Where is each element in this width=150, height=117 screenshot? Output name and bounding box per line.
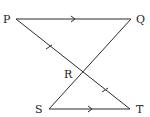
label-p: P	[3, 13, 11, 26]
segment-qs	[49, 19, 131, 109]
segment-pt	[16, 19, 130, 109]
label-s: S	[35, 103, 43, 116]
label-r: R	[64, 68, 73, 81]
geometry-diagram: P Q R S T	[0, 0, 150, 117]
label-t: T	[136, 103, 144, 116]
label-q: Q	[136, 13, 145, 26]
